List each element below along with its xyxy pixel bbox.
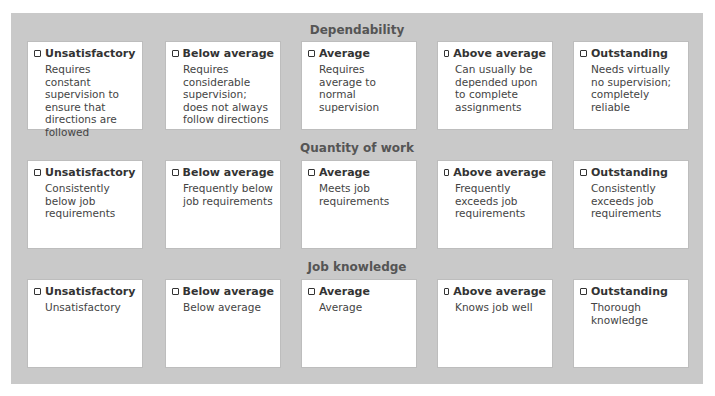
- rating-box: Outstanding Thorough knowledge: [573, 279, 689, 368]
- checkbox[interactable]: [444, 288, 449, 295]
- rating-label: Unsatisfactory: [45, 285, 135, 298]
- rating-label: Outstanding: [591, 47, 668, 60]
- rating-box: Above average Knows job well: [437, 279, 553, 368]
- rating-label: Below average: [183, 47, 274, 60]
- rating-label: Average: [319, 47, 370, 60]
- rating-description: Frequently exceeds job requirements: [444, 182, 546, 220]
- rating-description: Requires average to normal supervision: [308, 63, 410, 113]
- rating-box: Above average Can usually be depended up…: [437, 41, 553, 130]
- rating-box: Average Requires average to normal super…: [301, 41, 417, 130]
- rating-box: Above average Frequently exceeds job req…: [437, 160, 553, 249]
- rating-box: Unsatisfactory Requires constant supervi…: [27, 41, 143, 130]
- rating-description: Needs virtually no supervision; complete…: [580, 63, 682, 113]
- rating-label: Below average: [183, 166, 274, 179]
- rating-box: Below average Requires considerable supe…: [165, 41, 281, 130]
- rating-box: Outstanding Consistently exceeds job req…: [573, 160, 689, 249]
- checkbox[interactable]: [308, 169, 315, 176]
- checkbox[interactable]: [444, 169, 449, 176]
- checkbox[interactable]: [34, 169, 41, 176]
- checkbox[interactable]: [34, 50, 41, 57]
- rating-description: Meets job requirements: [308, 182, 410, 207]
- rating-box: Below average Frequently below job requi…: [165, 160, 281, 249]
- rating-description: Requires considerable supervision; does …: [172, 63, 274, 126]
- rating-label: Above average: [453, 285, 546, 298]
- section-title-dependability: Dependability: [11, 23, 703, 37]
- rating-box: Below average Below average: [165, 279, 281, 368]
- rating-description: Requires constant supervision to ensure …: [34, 63, 136, 138]
- checkbox[interactable]: [308, 50, 315, 57]
- rating-label: Outstanding: [591, 166, 668, 179]
- checkbox[interactable]: [580, 288, 587, 295]
- checkbox[interactable]: [444, 50, 449, 57]
- checkbox[interactable]: [172, 288, 179, 295]
- rating-box: Average Meets job requirements: [301, 160, 417, 249]
- rating-description: Unsatisfactory: [34, 301, 136, 314]
- rating-box: Unsatisfactory Consistently below job re…: [27, 160, 143, 249]
- rating-label: Average: [319, 285, 370, 298]
- checkbox[interactable]: [172, 50, 179, 57]
- rating-description: Frequently below job requirements: [172, 182, 274, 207]
- rating-description: Consistently below job requirements: [34, 182, 136, 220]
- checkbox[interactable]: [580, 169, 587, 176]
- rating-description: Knows job well: [444, 301, 546, 314]
- rating-description: Thorough knowledge: [580, 301, 682, 326]
- rating-description: Can usually be depended upon to complete…: [444, 63, 546, 113]
- rating-box: Unsatisfactory Unsatisfactory: [27, 279, 143, 368]
- rating-label: Unsatisfactory: [45, 166, 135, 179]
- rating-description: Below average: [172, 301, 274, 314]
- rating-description: Consistently exceeds job requirements: [580, 182, 682, 220]
- rating-box: Outstanding Needs virtually no supervisi…: [573, 41, 689, 130]
- section-title-job-knowledge: Job knowledge: [11, 260, 703, 274]
- rating-scale-panel: Dependability Unsatisfactory Requires co…: [11, 13, 703, 384]
- rating-box: Average Average: [301, 279, 417, 368]
- rating-label: Unsatisfactory: [45, 47, 135, 60]
- rating-label: Average: [319, 166, 370, 179]
- checkbox[interactable]: [172, 169, 179, 176]
- rating-label: Below average: [183, 285, 274, 298]
- rating-label: Outstanding: [591, 285, 668, 298]
- section-title-quantity-of-work: Quantity of work: [11, 141, 703, 155]
- rating-description: Average: [308, 301, 410, 314]
- checkbox[interactable]: [308, 288, 315, 295]
- rating-label: Above average: [453, 166, 546, 179]
- rating-label: Above average: [453, 47, 546, 60]
- checkbox[interactable]: [580, 50, 587, 57]
- checkbox[interactable]: [34, 288, 41, 295]
